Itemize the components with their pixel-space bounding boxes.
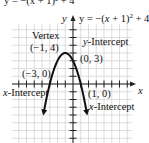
x-intercept-right-point: (1, 0): [88, 88, 111, 100]
y-intercept-point: (0, 3): [80, 53, 103, 65]
y-axis-label: y: [61, 13, 67, 24]
y-axis-arrow-icon: [71, 15, 76, 21]
equation-label: y = −(x + 1)2 + 4: [79, 12, 149, 25]
x-intercept-left-point: (−3, 0): [22, 68, 51, 80]
vertex-title: Vertex: [32, 30, 60, 41]
top-cut-equation: y = −(x + 1)² + 4: [4, 0, 75, 7]
x-axis-label: x: [137, 85, 143, 96]
x-intercept-left-title: x-Intercept: [2, 87, 49, 98]
x-axis-arrow-icon: [130, 82, 136, 87]
y-intercept-title: y-Intercept: [82, 36, 129, 47]
vertex-point: (−1, 4): [30, 42, 59, 54]
parabola-chart: y = −(x + 1)² + 4 y y = −(x + 1)2 + 4 Ve…: [0, 0, 149, 143]
x-intercept-right-title: x-Intercept: [88, 101, 135, 112]
